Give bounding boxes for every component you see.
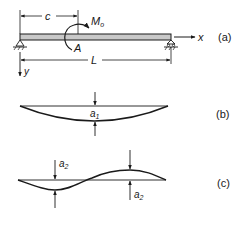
beam — [20, 34, 171, 40]
amplitude-a2-left-label: a2 — [59, 158, 69, 170]
beam-deflection-diagram: x (a) c Mo A L y a1 (b) a2 — [0, 0, 244, 226]
moment-label: Mo — [91, 15, 104, 28]
amplitude-a1-label: a1 — [90, 108, 100, 120]
amplitude-a2-right-label: a2 — [134, 189, 144, 201]
dimension-c-label: c — [45, 10, 51, 22]
panel-c-tag: (c) — [217, 177, 230, 189]
panel-a: x (a) c Mo A L y — [13, 10, 231, 77]
dimension-l-label: L — [91, 54, 97, 66]
panel-a-tag: (a) — [218, 31, 231, 43]
point-a-label: A — [73, 42, 81, 54]
panel-b-tag: (b) — [216, 108, 229, 120]
y-axis-label: y — [23, 66, 30, 77]
pin-support-icon — [13, 40, 27, 50]
panel-c: a2 a2 (c) — [18, 150, 230, 208]
x-axis-label: x — [197, 31, 204, 43]
panel-b: a1 (b) — [20, 92, 229, 136]
